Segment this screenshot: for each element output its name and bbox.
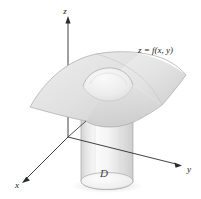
x-axis-label: x [14, 180, 19, 190]
x-axis [22, 137, 68, 183]
surface-diagram: z y x z = f(x, y) D [0, 0, 201, 199]
y-axis-label: y [186, 164, 191, 174]
figure-container: z y x z = f(x, y) D [0, 0, 201, 199]
function-label: z = f(x, y) [137, 45, 173, 55]
region-label: D [99, 167, 108, 179]
z-axis-label: z [62, 6, 67, 16]
